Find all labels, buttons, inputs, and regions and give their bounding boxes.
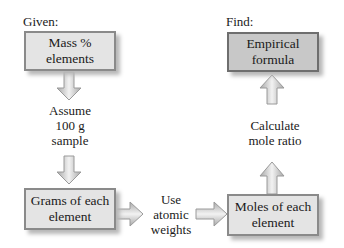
node-grams: Grams of each element	[24, 188, 116, 230]
arrow-up-2-icon	[260, 75, 284, 104]
step-calculate-ratio: Calculate mole ratio	[240, 118, 310, 148]
node-mass-percent: Mass % elements	[24, 31, 116, 71]
arrow-down-1-icon	[57, 72, 81, 100]
find-label: Find:	[226, 14, 253, 30]
arrow-up-1-icon	[260, 162, 284, 194]
step-assume-100g: Assume 100 g sample	[44, 103, 96, 148]
step-atomic-weights: Use atomic weights	[146, 192, 196, 237]
arrow-down-2-icon	[57, 156, 81, 184]
arrow-right-1-icon	[116, 202, 143, 226]
given-label: Given:	[23, 14, 58, 30]
node-empirical-formula: Empirical formula	[227, 32, 319, 72]
node-moles: Moles of each element	[227, 194, 319, 236]
arrow-right-2-icon	[196, 202, 227, 226]
